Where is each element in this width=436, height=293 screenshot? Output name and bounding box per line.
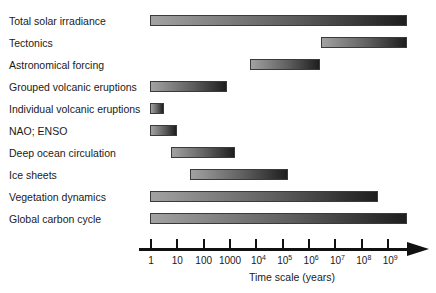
row-label: Global carbon cycle xyxy=(9,213,101,225)
tick-base: 10 xyxy=(251,255,262,266)
tick-label: 108 xyxy=(356,255,371,266)
tick-base: 10 xyxy=(383,255,394,266)
tick-label: 105 xyxy=(277,255,292,266)
axis-tick xyxy=(176,239,178,249)
axis-tick xyxy=(282,239,284,249)
tick-label: 100 xyxy=(195,255,212,266)
tick-label: 10 xyxy=(172,255,183,266)
tick-label: 107 xyxy=(330,255,345,266)
tick-base: 1000 xyxy=(219,255,241,266)
row-label: Individual volcanic eruptions xyxy=(9,103,140,115)
tick-label: 104 xyxy=(251,255,266,266)
time-scale-chart: Total solar irradianceTectonicsAstronomi… xyxy=(0,0,436,293)
tick-label: 109 xyxy=(383,255,398,266)
tick-exponent: 7 xyxy=(341,254,345,261)
axis-tick xyxy=(229,239,231,249)
range-bar xyxy=(250,59,320,70)
tick-label: 1 xyxy=(148,255,154,266)
row-label: NAO; ENSO xyxy=(9,125,67,137)
range-bar xyxy=(150,191,378,202)
tick-exponent: 9 xyxy=(394,254,398,261)
tick-base: 10 xyxy=(356,255,367,266)
range-bar xyxy=(150,213,407,224)
tick-base: 100 xyxy=(195,255,212,266)
axis-tick xyxy=(255,239,257,249)
x-axis-title: Time scale (years) xyxy=(249,271,335,283)
axis-arrow-icon xyxy=(407,242,429,256)
range-bar xyxy=(171,147,235,158)
range-bar xyxy=(150,15,407,26)
tick-base: 10 xyxy=(172,255,183,266)
range-bar xyxy=(150,81,227,92)
tick-base: 10 xyxy=(304,255,315,266)
row-label: Deep ocean circulation xyxy=(9,147,116,159)
row-label: Total solar irradiance xyxy=(9,15,106,27)
row-label: Astronomical forcing xyxy=(9,59,104,71)
tick-label: 106 xyxy=(304,255,319,266)
axis-tick xyxy=(387,239,389,249)
row-label: Grouped volcanic eruptions xyxy=(9,81,137,93)
tick-label: 1000 xyxy=(219,255,241,266)
tick-exponent: 8 xyxy=(367,254,371,261)
time-axis-line xyxy=(139,248,411,251)
tick-base: 10 xyxy=(277,255,288,266)
axis-tick xyxy=(308,239,310,249)
tick-base: 10 xyxy=(330,255,341,266)
axis-tick xyxy=(334,239,336,249)
axis-tick xyxy=(150,239,152,249)
row-label: Vegetation dynamics xyxy=(9,191,106,203)
range-bar xyxy=(150,125,177,136)
range-bar xyxy=(321,37,406,48)
row-label: Ice sheets xyxy=(9,169,57,181)
tick-exponent: 5 xyxy=(288,254,292,261)
range-bar xyxy=(150,103,164,114)
tick-exponent: 6 xyxy=(315,254,319,261)
tick-base: 1 xyxy=(148,255,154,266)
axis-tick xyxy=(361,239,363,249)
axis-tick xyxy=(203,239,205,249)
range-bar xyxy=(190,169,288,180)
row-label: Tectonics xyxy=(9,37,53,49)
tick-exponent: 4 xyxy=(262,254,266,261)
